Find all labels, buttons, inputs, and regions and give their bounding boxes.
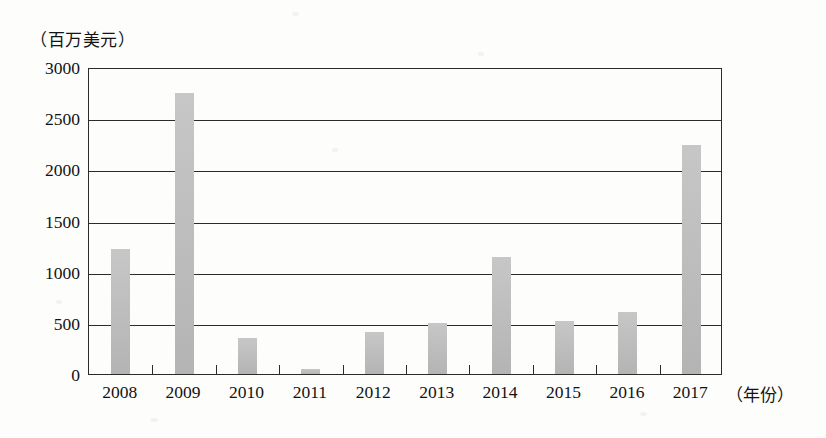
- bar: [555, 321, 574, 374]
- x-tick-mark: [469, 365, 470, 374]
- scan-speckle: [640, 412, 647, 416]
- x-tick-mark: [406, 365, 407, 374]
- scan-speckle: [56, 300, 62, 304]
- bar: [428, 323, 447, 374]
- bar: [301, 369, 320, 374]
- x-tick-label: 2012: [338, 382, 408, 403]
- bar: [175, 93, 194, 374]
- x-tick-mark: [279, 365, 280, 374]
- x-tick-label: 2010: [212, 382, 282, 403]
- x-tick-mark: [152, 365, 153, 374]
- y-tick-label: 2500: [20, 109, 80, 130]
- x-tick-label: 2015: [529, 382, 599, 403]
- bar: [682, 145, 701, 374]
- y-axis-unit-label: （百万美元）: [30, 26, 135, 51]
- x-tick-mark: [533, 365, 534, 374]
- y-tick-label: 3000: [20, 58, 80, 79]
- x-tick-mark: [596, 365, 597, 374]
- y-tick-label: 1500: [20, 211, 80, 232]
- y-tick-label: 0: [20, 365, 80, 386]
- x-axis-unit-label: （年份）: [726, 381, 794, 406]
- bar: [618, 312, 637, 374]
- bar-chart-figure: （百万美元） 050010001500200025003000 20082009…: [0, 0, 826, 438]
- scan-speckle: [478, 52, 484, 56]
- x-tick-label: 2017: [655, 382, 725, 403]
- scan-speckle: [292, 12, 299, 16]
- bar: [111, 249, 130, 374]
- bar: [492, 257, 511, 374]
- x-tick-label: 2014: [465, 382, 535, 403]
- x-tick-label: 2016: [592, 382, 662, 403]
- x-tick-mark: [660, 365, 661, 374]
- scan-speckle: [150, 418, 158, 422]
- x-tick-label: 2013: [402, 382, 472, 403]
- x-tick-mark: [216, 365, 217, 374]
- x-tick-mark: [343, 365, 344, 374]
- bar: [238, 338, 257, 374]
- bar: [365, 332, 384, 374]
- y-tick-label: 500: [20, 313, 80, 334]
- x-tick-label: 2008: [85, 382, 155, 403]
- x-tick-label: 2011: [275, 382, 345, 403]
- plot-area: [88, 68, 722, 375]
- x-tick-label: 2009: [148, 382, 218, 403]
- y-tick-label: 2000: [20, 160, 80, 181]
- y-tick-label: 1000: [20, 262, 80, 283]
